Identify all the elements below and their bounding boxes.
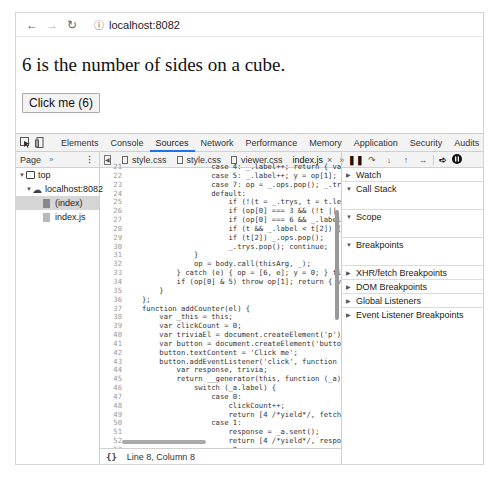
sources-panel: Page » ⋮ ▼ top ▼ ☁ localhost:8082 (index… xyxy=(16,152,483,464)
page-content: 6 is the number of sides on a cube. Clic… xyxy=(16,37,483,133)
step-into-icon[interactable]: ↓ xyxy=(382,155,396,165)
section-body xyxy=(342,223,483,237)
code-area[interactable]: 21 case 4: _.label++; return { value: op… xyxy=(100,163,341,448)
pretty-print-icon[interactable]: {} xyxy=(106,452,117,462)
code-line[interactable]: 53 case 2: xyxy=(100,446,341,448)
section-scope: ▼Scope xyxy=(342,210,483,238)
inspect-element-icon[interactable] xyxy=(20,136,31,150)
expand-triangle-icon[interactable]: ▼ xyxy=(18,172,26,178)
tree-label: (index) xyxy=(55,198,83,208)
section-label: Call Stack xyxy=(356,184,397,194)
collapsed-triangle-icon: ▶ xyxy=(346,171,352,178)
section-header[interactable]: ▼Scope xyxy=(342,210,483,223)
cursor-position: Line 8, Column 8 xyxy=(127,452,195,462)
section-label: Event Listener Breakpoints xyxy=(356,310,464,320)
section-label: Global Listeners xyxy=(356,296,421,306)
devtools-panel: Elements Console Sources Network Perform… xyxy=(16,133,483,464)
section-label: Breakpoints xyxy=(356,240,404,250)
section-label: Scope xyxy=(356,212,382,222)
tab-network[interactable]: Network xyxy=(195,134,240,152)
debugger-sidebar: ❚❚ ↷ ↓ ↑ → ➪ ▶Watch ▼Call Stack xyxy=(342,152,483,464)
kebab-menu-icon[interactable]: ⋮ xyxy=(85,155,94,165)
collapsed-triangle-icon: ▶ xyxy=(346,269,352,276)
file-navigator: Page » ⋮ ▼ top ▼ ☁ localhost:8082 (index… xyxy=(16,152,100,464)
code-line[interactable]: 34 if (op[0] & 5) throw op[1]; return { … xyxy=(100,278,341,287)
section-global-listeners: ▶Global Listeners xyxy=(342,294,483,308)
tab-performance[interactable]: Performance xyxy=(240,134,304,152)
collapsed-triangle-icon: ▶ xyxy=(346,311,352,318)
tab-audits[interactable]: Audits xyxy=(448,134,484,152)
horizontal-scrollbar[interactable] xyxy=(122,440,206,444)
url-input[interactable]: localhost:8082 xyxy=(109,19,180,31)
step-out-icon[interactable]: ↑ xyxy=(399,155,413,165)
section-header[interactable]: ▶Watch xyxy=(342,168,483,181)
tree-item-origin[interactable]: ▼ ☁ localhost:8082 xyxy=(16,182,99,196)
section-header[interactable]: ▶DOM Breakpoints xyxy=(342,280,483,293)
navigator-header: Page » ⋮ xyxy=(16,152,99,168)
expanded-triangle-icon: ▼ xyxy=(346,214,352,220)
vertical-scrollbar[interactable] xyxy=(335,210,339,320)
section-body xyxy=(342,195,483,209)
file-icon xyxy=(43,213,50,222)
section-event-listener-breakpoints: ▶Event Listener Breakpoints xyxy=(342,308,483,321)
debugger-toolbar: ❚❚ ↷ ↓ ↑ → ➪ xyxy=(342,152,483,168)
section-label: Watch xyxy=(356,170,381,180)
forward-arrow-icon[interactable]: → xyxy=(44,18,60,32)
section-dom-breakpoints: ▶DOM Breakpoints xyxy=(342,280,483,294)
section-header[interactable]: ▶XHR/fetch Breakpoints xyxy=(342,266,483,279)
collapsed-triangle-icon: ▶ xyxy=(346,297,352,304)
expanded-triangle-icon: ▼ xyxy=(346,242,352,248)
section-header[interactable]: ▶Global Listeners xyxy=(342,294,483,307)
tab-application[interactable]: Application xyxy=(348,134,404,152)
tab-console[interactable]: Console xyxy=(105,134,150,152)
code-editor: ◀ style.css style.css viewer.css index.j… xyxy=(100,152,342,464)
code-line[interactable]: 30 _.trys.pop(); continue; xyxy=(100,243,341,252)
editor-status-bar: {} Line 8, Column 8 xyxy=(100,448,341,464)
trivia-text: 6 is the number of sides on a cube. xyxy=(22,54,285,76)
tree-label: index.js xyxy=(55,212,86,222)
devtools-tab-bar: Elements Console Sources Network Perform… xyxy=(16,134,483,152)
reload-icon[interactable]: ↻ xyxy=(64,18,80,32)
expanded-triangle-icon: ▼ xyxy=(346,186,352,192)
pause-on-exceptions-icon[interactable] xyxy=(450,154,464,166)
section-header[interactable]: ▼Call Stack xyxy=(342,182,483,195)
tree-label: top xyxy=(38,170,51,180)
section-header[interactable]: ▼Breakpoints xyxy=(342,238,483,251)
deactivate-breakpoints-icon[interactable]: ➪ xyxy=(433,155,447,165)
section-watch: ▶Watch xyxy=(342,168,483,182)
step-over-icon[interactable]: ↷ xyxy=(365,155,379,165)
tab-memory[interactable]: Memory xyxy=(303,134,348,152)
tab-sources[interactable]: Sources xyxy=(150,134,195,152)
click-me-button[interactable]: Click me (6) xyxy=(22,93,100,113)
pause-icon[interactable]: ❚❚ xyxy=(348,155,362,165)
tab-elements[interactable]: Elements xyxy=(55,134,105,152)
frame-icon xyxy=(26,171,35,179)
section-header[interactable]: ▶Event Listener Breakpoints xyxy=(342,308,483,321)
cloud-icon: ☁ xyxy=(32,184,42,195)
tree-label: localhost:8082 xyxy=(45,184,103,194)
section-call-stack: ▼Call Stack xyxy=(342,182,483,210)
navigator-tab-page[interactable]: Page xyxy=(20,155,41,165)
tree-item-index-js[interactable]: index.js xyxy=(16,210,99,224)
section-label: XHR/fetch Breakpoints xyxy=(356,268,447,278)
section-xhr-breakpoints: ▶XHR/fetch Breakpoints xyxy=(342,266,483,280)
step-icon[interactable]: → xyxy=(416,155,430,165)
section-breakpoints: ▼Breakpoints xyxy=(342,238,483,266)
line-text: case 2: xyxy=(126,446,242,448)
more-tabs-icon[interactable]: » xyxy=(49,155,53,164)
line-number[interactable]: 53 xyxy=(100,446,126,448)
browser-window: ← → ↻ ⓘ localhost:8082 6 is the number o… xyxy=(15,12,484,465)
section-body xyxy=(342,251,483,265)
section-label: DOM Breakpoints xyxy=(356,282,427,292)
file-icon xyxy=(43,199,50,208)
tree-item-top[interactable]: ▼ top xyxy=(16,168,99,182)
code-line[interactable]: 35 } xyxy=(100,287,341,296)
device-toolbar-icon[interactable] xyxy=(35,136,45,150)
tab-security[interactable]: Security xyxy=(404,134,449,152)
address-bar: ← → ↻ ⓘ localhost:8082 xyxy=(16,13,483,37)
tree-item-index[interactable]: (index) xyxy=(16,196,99,210)
collapsed-triangle-icon: ▶ xyxy=(346,283,352,290)
info-icon[interactable]: ⓘ xyxy=(94,17,104,32)
back-arrow-icon[interactable]: ← xyxy=(24,18,40,32)
